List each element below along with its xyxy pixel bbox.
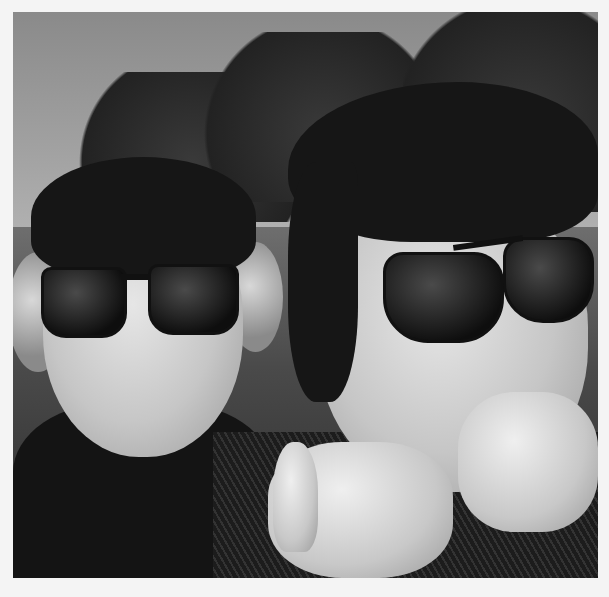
left-person-sunglasses-bridge: [121, 274, 149, 280]
photograph: [13, 12, 598, 578]
right-hand: [458, 392, 598, 532]
right-person-sunglasses-left-lens: [383, 252, 504, 343]
right-person-sunglasses-right-lens: [503, 237, 594, 323]
left-person-hair: [31, 157, 256, 277]
pointing-finger: [273, 442, 318, 552]
right-person-hair-side: [288, 162, 358, 402]
left-person-sunglasses-right-lens: [148, 264, 239, 335]
left-person-sunglasses-left-lens: [41, 267, 127, 338]
